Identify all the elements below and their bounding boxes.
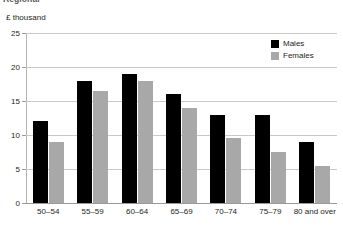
bar-females	[93, 91, 108, 203]
y-axis-tick-label: 25	[0, 29, 20, 38]
bar-females	[315, 166, 330, 203]
bar-group	[33, 33, 64, 203]
legend-swatch-females	[271, 52, 279, 60]
x-axis-tick-label: 55–59	[82, 207, 104, 216]
bar-males	[255, 115, 270, 203]
y-axis-tick	[22, 135, 26, 136]
y-axis-tick-label: 10	[0, 131, 20, 140]
y-axis-tick	[22, 67, 26, 68]
bar-females	[271, 152, 286, 203]
y-axis-tick-label: 0	[0, 199, 20, 208]
y-axis-unit-label: £ thousand	[6, 13, 46, 22]
bar-males	[33, 121, 48, 203]
legend-label: Females	[283, 51, 314, 60]
y-axis-tick-labels: 0510152025	[0, 33, 20, 203]
x-axis-tick-labels: 50–5455–5960–6465–6970–7475–7980 and ove…	[26, 207, 337, 225]
bar-females	[182, 108, 197, 203]
y-axis-tick-label: 5	[0, 165, 20, 174]
bar-group	[166, 33, 197, 203]
legend-label: Males	[283, 39, 304, 48]
bar-females	[49, 142, 64, 203]
x-axis-tick-label: 65–69	[170, 207, 192, 216]
bar-males	[122, 74, 137, 203]
axis-baseline	[26, 203, 337, 204]
y-axis-tick	[22, 203, 26, 204]
bar-females	[226, 138, 241, 203]
x-axis-tick-label: 75–79	[259, 207, 281, 216]
y-axis-tick	[22, 101, 26, 102]
bar-group	[210, 33, 241, 203]
y-axis-tick	[22, 169, 26, 170]
chart-legend: MalesFemales	[271, 39, 314, 63]
x-axis-tick-label: 80 and over	[294, 207, 336, 216]
legend-swatch-males	[271, 40, 279, 48]
y-axis-tick	[22, 33, 26, 34]
bar-males	[210, 115, 225, 203]
x-axis-tick-label: 50–54	[37, 207, 59, 216]
x-axis-tick-label: 70–74	[215, 207, 237, 216]
legend-item: Females	[271, 51, 314, 60]
bar-group	[122, 33, 153, 203]
figure-heading: Regional	[3, 0, 40, 4]
y-axis-tick-label: 15	[0, 97, 20, 106]
bar-males	[166, 94, 181, 203]
bar-males	[299, 142, 314, 203]
bar-males	[77, 81, 92, 203]
bar-chart-figure: Regional £ thousand 0510152025 50–5455–5…	[0, 0, 343, 232]
bar-group	[77, 33, 108, 203]
bar-females	[138, 81, 153, 203]
x-axis-tick-label: 60–64	[126, 207, 148, 216]
y-axis-tick-label: 20	[0, 63, 20, 72]
legend-item: Males	[271, 39, 314, 48]
